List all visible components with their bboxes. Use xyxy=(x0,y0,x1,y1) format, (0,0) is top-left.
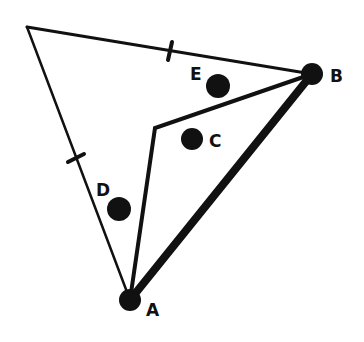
vertex-b-dot xyxy=(301,63,323,85)
edge-a-b-thick xyxy=(130,74,312,300)
label-d: D xyxy=(96,180,110,200)
point-d-dot xyxy=(107,197,131,221)
point-e-dot xyxy=(206,74,230,98)
label-e: E xyxy=(190,64,202,84)
label-c: C xyxy=(209,131,221,151)
label-a: A xyxy=(146,300,160,320)
label-b: B xyxy=(330,66,343,86)
geometry-diagram: B A E C D xyxy=(0,0,364,342)
point-c-dot xyxy=(181,128,203,150)
edge-topleft-a xyxy=(27,27,130,300)
diagram-canvas: B A E C D xyxy=(0,0,364,342)
vertex-a-dot xyxy=(119,289,141,311)
tick-mark-top xyxy=(168,42,172,60)
